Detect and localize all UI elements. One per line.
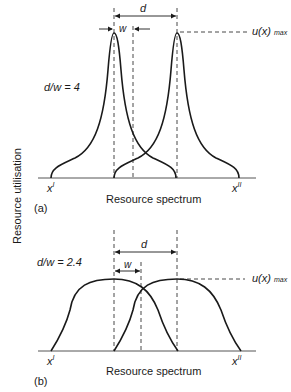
umax-label-a: u(x) max — [252, 25, 287, 37]
y-axis-label: Resource utilisation — [11, 141, 23, 251]
curve-b-right — [114, 279, 241, 351]
umax-text: u(x) — [252, 25, 271, 37]
curve-a-left — [51, 33, 176, 178]
x-axis-label-a: Resource spectrum — [106, 193, 201, 205]
x-right-label-b: xII — [232, 354, 241, 367]
w-label-a: w — [119, 23, 126, 34]
panel-label-a: (a) — [34, 202, 47, 214]
x-left-sup: I — [53, 181, 55, 188]
w-label-b: w — [124, 259, 131, 270]
x-left-label-b: xI — [47, 354, 54, 367]
x-left-label-a: xI — [47, 181, 54, 194]
x-left-sup: I — [53, 354, 55, 361]
umax-text: u(x) — [252, 272, 271, 284]
ratio-label-a: d/w = 4 — [44, 81, 80, 93]
x-axis-label-b: Resource spectrum — [106, 365, 201, 377]
umax-label-b: u(x) max — [252, 272, 287, 284]
umax-sub: max — [274, 29, 287, 36]
x-right-sup: II — [238, 181, 242, 188]
d-label-a: d — [140, 2, 146, 14]
d-label-b: d — [141, 238, 147, 250]
x-right-label-a: xII — [232, 181, 241, 194]
panel-label-b: (b) — [34, 375, 47, 387]
ratio-label-b: d/w = 2.4 — [37, 256, 82, 268]
x-right-sup: II — [238, 354, 242, 361]
umax-sub: max — [274, 276, 287, 283]
curve-b-left — [51, 279, 178, 351]
